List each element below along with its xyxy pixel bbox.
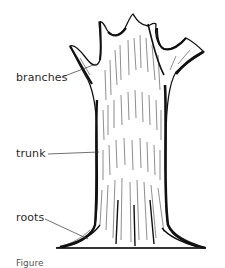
right-edge-shade [165,85,205,248]
left-edge-shade [60,100,97,247]
trunk-label: trunk [16,148,46,159]
tree-trunk-shape [56,14,206,248]
figure-caption: Figure [16,259,43,268]
trunk-leader-line [48,152,99,154]
roots-leader-line [45,219,88,239]
branches-label: branches [16,72,68,83]
branch-mid-shade [100,22,101,60]
roots-label: roots [16,212,44,223]
